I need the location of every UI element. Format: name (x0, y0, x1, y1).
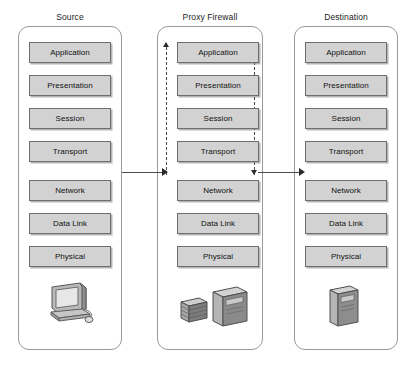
connector-source-to-firewall (122, 172, 164, 173)
desktop-computer-icon (48, 281, 96, 325)
layer-destination-session: Session (305, 108, 387, 129)
connector-source-to-firewall-arrow-icon (162, 168, 168, 176)
layer-firewall-transport: Transport (177, 141, 259, 162)
layer-source-data-link: Data Link (29, 213, 111, 234)
layer-destination-data-link: Data Link (305, 213, 387, 234)
column-title-proxy-firewall: Proxy Firewall (157, 12, 263, 23)
layer-firewall-physical: Physical (177, 246, 259, 267)
firewall-outbound-arrow-down-icon (251, 170, 257, 175)
layer-source-transport: Transport (29, 141, 111, 162)
layer-firewall-data-link: Data Link (177, 213, 259, 234)
layer-firewall-network: Network (177, 180, 259, 201)
layer-destination-presentation: Presentation (305, 75, 387, 96)
connector-firewall-to-destination-arrow-icon (299, 168, 305, 176)
layer-destination-physical: Physical (305, 246, 387, 267)
layer-firewall-presentation: Presentation (177, 75, 259, 96)
proxy-firewall-osi-diagram: Source Proxy Firewall Destination Applic… (0, 0, 411, 366)
layer-firewall-session: Session (177, 108, 259, 129)
server-tower-icon (324, 283, 368, 329)
layer-source-session: Session (29, 108, 111, 129)
layer-destination-transport: Transport (305, 141, 387, 162)
column-title-destination: Destination (294, 12, 398, 23)
layer-source-physical: Physical (29, 246, 111, 267)
layer-source-presentation: Presentation (29, 75, 111, 96)
layer-firewall-application: Application (177, 42, 259, 63)
layer-source-network: Network (29, 180, 111, 201)
layer-destination-network: Network (305, 180, 387, 201)
layer-destination-application: Application (305, 42, 387, 63)
column-title-source: Source (18, 12, 122, 23)
firewall-inbound-arrow-up-icon (163, 42, 169, 47)
connector-firewall-to-destination (258, 172, 300, 173)
firewall-inbound-dashed-path (166, 47, 167, 175)
layer-source-application: Application (29, 42, 111, 63)
firewall-server-icon (179, 284, 251, 328)
